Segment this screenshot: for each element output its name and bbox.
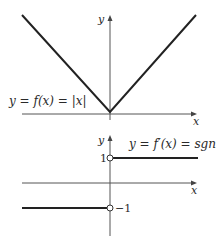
open-point-lower bbox=[107, 205, 113, 211]
open-point-upper bbox=[107, 155, 113, 161]
bottom-function-label: y = f′(x) = sgn x bbox=[128, 137, 219, 151]
top-graph: y x y = f(x) = |x| bbox=[8, 13, 200, 128]
bottom-y-axis-arrow-icon bbox=[108, 135, 113, 141]
top-x-axis-label: x bbox=[193, 115, 200, 128]
bottom-graph: y x 1 −1 y = f′(x) = sgn x bbox=[22, 134, 219, 236]
top-function-label: y = f(x) = |x| bbox=[8, 94, 87, 108]
bottom-y-axis-label: y bbox=[97, 134, 105, 147]
tick-label-one: 1 bbox=[100, 152, 107, 165]
derivative-diagram: y x y = f(x) = |x| y x 1 −1 y = f′(x) = … bbox=[0, 0, 219, 236]
bottom-x-axis-label: x bbox=[191, 184, 198, 197]
tick-label-neg-one: −1 bbox=[115, 202, 131, 215]
top-y-axis-label: y bbox=[97, 13, 105, 26]
top-y-axis-arrow-icon bbox=[108, 15, 113, 21]
